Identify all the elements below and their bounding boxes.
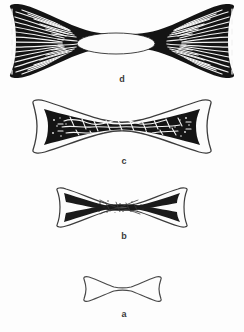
specimen-label-b: b <box>104 231 144 241</box>
specimen-plate <box>0 0 244 332</box>
specimen-label-d: d <box>102 74 142 84</box>
specimen-label-a: a <box>104 309 144 319</box>
specimen-label-c: c <box>104 156 144 166</box>
specimen-d-medullary-cavity <box>77 33 155 54</box>
